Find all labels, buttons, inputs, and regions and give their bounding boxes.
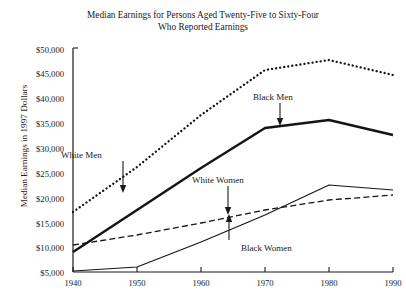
series-line-white-men bbox=[73, 60, 393, 212]
annotation-label-white-women: White Women bbox=[192, 175, 244, 185]
chart-container: Median Earnings for Persons Aged Twenty-… bbox=[0, 0, 406, 303]
annotation-arrow-black-men bbox=[277, 103, 283, 126]
annotation-arrow-white-men bbox=[120, 161, 126, 193]
annotation-label-black-women: Black Women bbox=[241, 243, 292, 253]
annotation-label-black-men: Black Men bbox=[253, 92, 293, 102]
axis-lines bbox=[73, 48, 393, 272]
annotation-arrow-white-women bbox=[225, 186, 231, 215]
series-line-black-women bbox=[73, 185, 393, 271]
annotation-arrow-black-women bbox=[226, 214, 232, 240]
annotation-label-white-men: White Men bbox=[61, 150, 102, 160]
